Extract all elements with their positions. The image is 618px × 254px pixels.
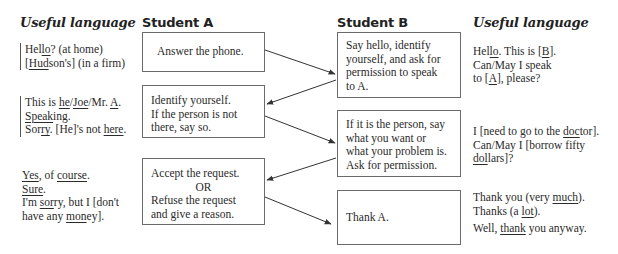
arrow-b1-to-a2 — [267, 80, 336, 104]
arrow-a2-to-b2 — [265, 116, 335, 143]
arrow-a1-to-b1 — [265, 50, 335, 74]
arrow-a3-to-b3 — [265, 197, 331, 224]
arrow-b2-to-a3 — [267, 158, 336, 180]
flow-arrows — [0, 0, 618, 254]
